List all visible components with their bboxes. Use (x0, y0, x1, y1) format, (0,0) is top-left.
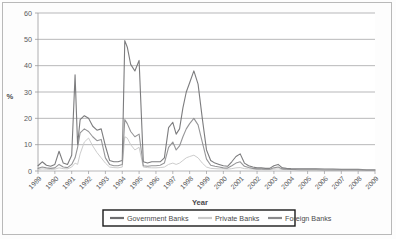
x-tick-label: 2007 (330, 175, 346, 191)
y-tick-label: 30 (24, 88, 32, 97)
y-tick-label: 50 (24, 35, 32, 44)
y-tick-label: 0 (28, 167, 32, 176)
x-tick-label: 2009 (364, 175, 380, 191)
x-tick-label: 2002 (246, 175, 262, 191)
x-tick-label: 1993 (94, 175, 110, 191)
y-tick-label: 40 (24, 61, 32, 70)
x-tick-label: 2005 (297, 175, 313, 191)
chart-legend[interactable]: Government BanksPrivate BanksForeign Ban… (103, 210, 332, 226)
legend-label-private-banks[interactable]: Private Banks (215, 214, 260, 223)
x-tick-label: 1994 (111, 175, 127, 191)
x-tick-label: 2000 (212, 175, 228, 191)
x-tick-label: 1992 (78, 175, 94, 191)
x-axis-tick-marks (38, 171, 375, 174)
chart-figure: 0102030405060 19891990199119921993199419… (0, 0, 396, 239)
legend-label-foreign-banks[interactable]: Foreign Banks (285, 214, 332, 223)
y-axis-tick-marks (35, 13, 38, 171)
x-tick-label: 1991 (61, 175, 77, 191)
legend-label-government-banks[interactable]: Government Banks (127, 214, 189, 223)
x-axis-tick-labels: 1989199019911992199319941995199619971998… (27, 175, 380, 191)
x-tick-label: 2001 (229, 175, 245, 191)
y-tick-label: 10 (24, 140, 32, 149)
y-axis-title: % (7, 92, 14, 101)
x-tick-label: 2003 (263, 175, 279, 191)
x-tick-label: 1996 (145, 175, 161, 191)
x-tick-label: 1999 (196, 175, 212, 191)
x-tick-label: 1990 (44, 175, 60, 191)
x-tick-label: 2004 (280, 175, 296, 191)
y-tick-label: 20 (24, 114, 32, 123)
legend-items: Government BanksPrivate BanksForeign Ban… (110, 214, 332, 223)
x-tick-label: 2006 (314, 175, 330, 191)
x-axis-title: Year (192, 198, 208, 207)
x-tick-label: 1989 (27, 175, 43, 191)
x-tick-label: 1997 (162, 175, 178, 191)
x-tick-label: 1995 (128, 175, 144, 191)
y-axis-tick-labels: 0102030405060 (24, 9, 32, 176)
line-chart-canvas: 0102030405060 19891990199119921993199419… (0, 0, 396, 239)
x-tick-label: 2008 (347, 175, 363, 191)
y-tick-label: 60 (24, 9, 32, 18)
x-tick-label: 1998 (179, 175, 195, 191)
